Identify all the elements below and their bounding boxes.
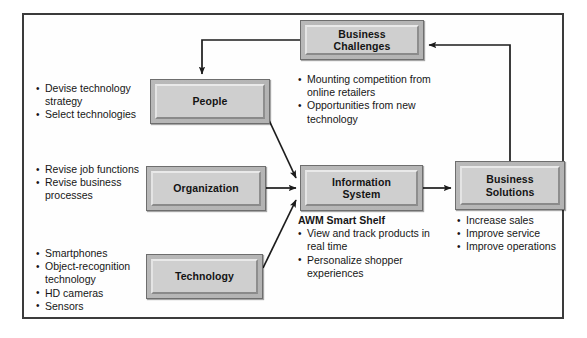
node-people-label: People	[192, 95, 227, 108]
list-item: Smartphones	[36, 247, 150, 260]
node-organization[interactable]: Organization	[146, 166, 266, 211]
list-item: Personalize shopper experiences	[298, 254, 450, 280]
list-item: View and track products in real time	[298, 227, 450, 253]
list-item: Mounting competition from online retaile…	[298, 73, 458, 99]
organization-bullet-list: Revise job functions Revise business pro…	[36, 163, 148, 203]
node-people[interactable]: People	[150, 79, 270, 124]
business-solutions-bullet-list: Increase sales Improve service Improve o…	[457, 214, 577, 254]
list-item: Revise job functions	[36, 163, 148, 176]
node-business-solutions[interactable]: Business Solutions	[455, 161, 565, 210]
node-information-system-label: Information System	[332, 176, 391, 201]
information-system-bullet-list: View and track products in real time Per…	[298, 227, 450, 280]
information-system-detail-heading: AWM Smart Shelf	[298, 214, 450, 227]
node-information-system[interactable]: Information System	[300, 165, 423, 211]
list-item: Devise technology strategy	[36, 82, 152, 108]
node-business-challenges-face: Business Challenges	[305, 25, 419, 55]
text-business-challenges-bullets: Mounting competition from online retaile…	[298, 73, 458, 126]
node-technology-label: Technology	[175, 270, 234, 283]
list-item: Improve service	[457, 227, 577, 240]
technology-bullet-list: Smartphones Object-recognition technolog…	[36, 247, 150, 313]
node-technology-face: Technology	[151, 259, 258, 294]
node-business-solutions-label: Business Solutions	[486, 173, 535, 198]
diagram-canvas: Business Challenges People Organization …	[0, 0, 587, 338]
node-business-challenges[interactable]: Business Challenges	[300, 20, 424, 60]
list-item: Revise business processes	[36, 176, 148, 202]
text-organization-bullets: Revise job functions Revise business pro…	[36, 163, 148, 203]
list-item: Sensors	[36, 300, 150, 313]
text-people-bullets: Devise technology strategy Select techno…	[36, 82, 152, 122]
node-business-challenges-label: Business Challenges	[333, 28, 390, 53]
node-organization-label: Organization	[173, 182, 238, 195]
node-information-system-face: Information System	[305, 170, 418, 206]
people-bullet-list: Devise technology strategy Select techno…	[36, 82, 152, 122]
business-challenges-bullet-list: Mounting competition from online retaile…	[298, 73, 458, 126]
list-item: Object-recognition technology	[36, 260, 150, 286]
text-technology-bullets: Smartphones Object-recognition technolog…	[36, 247, 150, 313]
node-organization-face: Organization	[151, 171, 261, 206]
list-item: Opportunities from new technology	[298, 99, 458, 125]
text-information-system-detail: AWM Smart Shelf View and track products …	[298, 214, 450, 280]
node-technology[interactable]: Technology	[146, 254, 263, 299]
list-item: Increase sales	[457, 214, 577, 227]
list-item: Improve operations	[457, 240, 577, 253]
node-people-face: People	[155, 84, 265, 119]
list-item: Select technologies	[36, 108, 152, 121]
node-business-solutions-face: Business Solutions	[460, 166, 560, 205]
text-business-solutions-bullets: Increase sales Improve service Improve o…	[457, 214, 577, 254]
list-item: HD cameras	[36, 287, 150, 300]
